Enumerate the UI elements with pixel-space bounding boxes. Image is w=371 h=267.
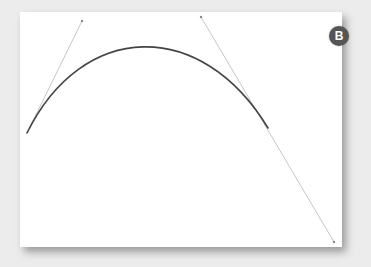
left-handle-point[interactable] xyxy=(81,20,83,22)
right-handle-point-bottom[interactable] xyxy=(333,241,335,243)
right-control-handle[interactable] xyxy=(201,17,334,242)
right-handle-point-top[interactable] xyxy=(200,16,202,18)
figure-label-badge: B xyxy=(329,26,349,46)
bezier-curve-illustration xyxy=(0,0,371,267)
